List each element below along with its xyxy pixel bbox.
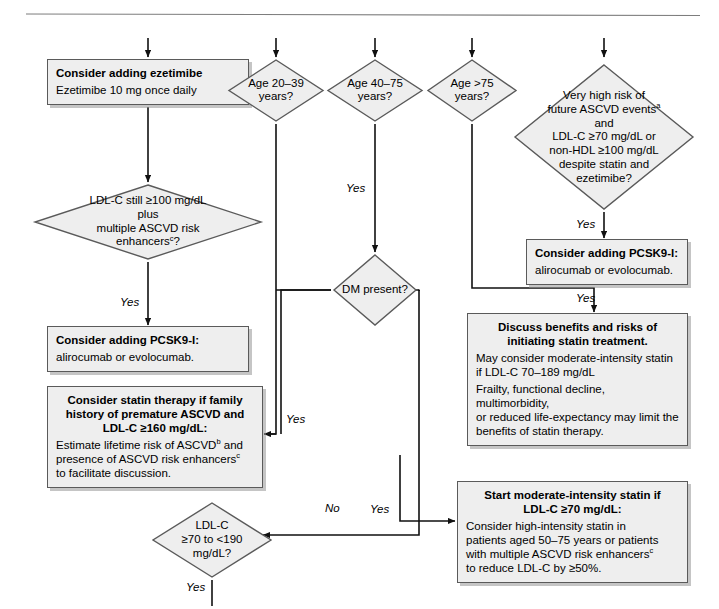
flowchart-canvas: Consider adding ezetimibe Ezetimibe 10 m… [0, 0, 719, 609]
family-title-3: LDL-C ≥160 mg/dL: [56, 421, 254, 435]
age2039-line2: years? [226, 91, 326, 105]
age4075-text: Age 40–75 years? [325, 77, 425, 105]
vhr-line2: future ASCVD eventsa [512, 103, 696, 117]
pcsk9-left-title: Consider adding PCSK9-I: [56, 333, 240, 347]
ldl100-line1: LDL-C still ≥100 mg/dL [32, 194, 264, 208]
ldl100-line4: enhancersc? [32, 236, 264, 250]
node-pcsk9i-left[interactable]: Consider adding PCSK9-I: alirocumab or e… [47, 326, 249, 372]
age75-line1: Age >75 [425, 77, 519, 91]
edge-dm-yes-to-start [400, 455, 455, 521]
ldl100-line2: plus [32, 208, 264, 222]
ldl100-line3: multiple ASCVD risk [32, 222, 264, 236]
edge-label-dm-no: No [325, 502, 340, 514]
dm-text: DM present? [331, 283, 419, 297]
edge-label-age4075-yes: Yes [346, 182, 365, 194]
node-start-moderate-intensity-statin[interactable]: Start moderate-intensity statin if LDL-C… [457, 481, 688, 583]
node-pcsk9i-right[interactable]: Consider adding PCSK9-I: alirocumab or e… [526, 239, 688, 285]
age2039-line1: Age 20–39 [226, 77, 326, 91]
ldl70190-line2: ≥70 to <190 [150, 533, 274, 547]
ldl70190-text: LDL-C ≥70 to <190 mg/dL? [150, 519, 274, 560]
age75-line2: years? [425, 91, 519, 105]
pcsk9-right-title: Consider adding PCSK9-I: [535, 246, 679, 260]
edge-label-ldl100-yes: Yes [120, 296, 139, 308]
family-body: Estimate lifetime risk of ASCVDb andpres… [56, 438, 254, 480]
node-dm-present-decision[interactable]: DM present? [331, 252, 419, 328]
dm-line1: DM present? [331, 283, 419, 297]
node-age-over-75-decision[interactable]: Age >75 years? [425, 57, 519, 124]
ldl100-text: LDL-C still ≥100 mg/dL plus multiple ASC… [32, 194, 264, 249]
vhr-line4: LDL-C ≥70 mg/dL or [512, 130, 696, 144]
discuss-title-1: Discuss benefits and risks of [476, 320, 679, 334]
vhr-line3: and [512, 116, 696, 130]
edge-label-veryhighrisk-yes: Yes [576, 218, 595, 230]
vhr-line6: despite statin and [512, 158, 696, 172]
vhr-line1: Very high risk of [512, 89, 696, 103]
vhr-line5: non-HDL ≥100 mg/dL [512, 144, 696, 158]
edge-label-ldl70190-yes: Yes [186, 581, 205, 593]
family-title-1: Consider statin therapy if family [56, 393, 254, 407]
age75-text: Age >75 years? [425, 77, 519, 105]
start-body: Consider high-intensity statin inpatient… [466, 519, 679, 575]
ldl70190-line3: mg/dL? [150, 547, 274, 561]
age4075-line2: years? [325, 91, 425, 105]
age2039-text: Age 20–39 years? [226, 77, 326, 105]
ezetimibe-title: Consider adding ezetimibe [56, 66, 240, 80]
start-title-2: LDL-C ≥70 mg/dL: [466, 502, 679, 516]
pcsk9-left-body: alirocumab or evolocumab. [56, 350, 240, 364]
node-discuss-benefits-risks[interactable]: Discuss benefits and risks of initiating… [467, 313, 688, 446]
edge-age2039-down [266, 124, 276, 434]
edge-label-dm-yes-left: Yes [286, 413, 305, 425]
edge-label-dm-yes-right: Yes [370, 503, 389, 515]
node-family-history-statin[interactable]: Consider statin therapy if family histor… [47, 386, 263, 488]
family-title-2: history of premature ASCVD and [56, 407, 254, 421]
node-ldl-70-190-decision[interactable]: LDL-C ≥70 to <190 mg/dL? [150, 500, 274, 580]
ezetimibe-body: Ezetimibe 10 mg once daily [56, 83, 240, 97]
node-very-high-risk-decision[interactable]: Very high risk of future ASCVD eventsa a… [512, 62, 696, 212]
start-title-1: Start moderate-intensity statin if [466, 488, 679, 502]
pcsk9-right-body: alirocumab or evolocumab. [535, 263, 679, 277]
node-age-40-75-decision[interactable]: Age 40–75 years? [325, 57, 425, 124]
ldl70190-line1: LDL-C [150, 519, 274, 533]
veryhighrisk-text: Very high risk of future ASCVD eventsa a… [512, 89, 696, 186]
discuss-para-1: May consider moderate-intensity statinif… [476, 351, 679, 379]
age4075-line1: Age 40–75 [325, 77, 425, 91]
edge-label-age75-yes: Yes [576, 292, 595, 304]
discuss-title-2: initiating statin treatment. [476, 334, 679, 348]
node-age-20-39-decision[interactable]: Age 20–39 years? [226, 57, 326, 124]
node-ldl-c-still-100-decision[interactable]: LDL-C still ≥100 mg/dL plus multiple ASC… [32, 182, 264, 262]
discuss-para-2: Frailty, functional decline, multimorbid… [476, 382, 679, 438]
node-consider-adding-ezetimibe[interactable]: Consider adding ezetimibe Ezetimibe 10 m… [47, 59, 249, 105]
vhr-line7: ezetimibe? [512, 171, 696, 185]
